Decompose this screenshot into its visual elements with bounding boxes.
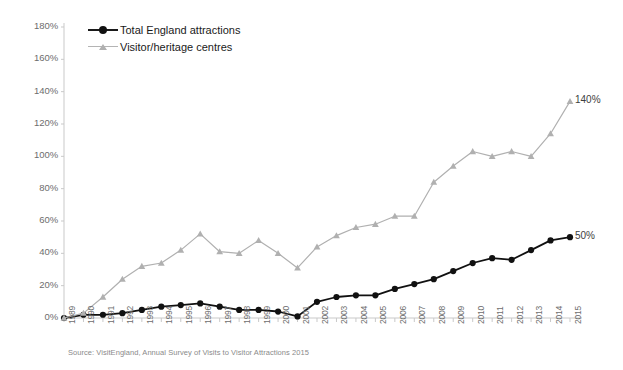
- x-axis-tick-label: 2004: [360, 306, 369, 324]
- x-axis-tick-label: 1989: [68, 306, 77, 324]
- x-axis-tick-label: 1997: [224, 306, 233, 324]
- legend-item-visitor-heritage-centres: Visitor/heritage centres: [88, 38, 240, 55]
- x-axis-tick-label: 2006: [399, 306, 408, 324]
- x-axis-tick-label: 1998: [243, 306, 252, 324]
- chart-legend: Total England attractions Visitor/herita…: [88, 21, 240, 55]
- x-axis-tick-label: 1993: [146, 306, 155, 324]
- y-axis-tick-label: 0%: [16, 312, 58, 322]
- y-axis-tick-label: 160%: [16, 53, 58, 63]
- y-axis-tick-label: 60%: [16, 215, 58, 225]
- x-axis-tick-label: 2001: [302, 306, 311, 324]
- source-note: Source: VisitEngland, Annual Survey of V…: [68, 348, 309, 357]
- chart-container: Total England attractions Visitor/herita…: [0, 0, 623, 370]
- x-axis-tick-label: 2002: [321, 306, 330, 324]
- legend-swatch-gray: [88, 41, 118, 53]
- x-axis-tick-label: 2011: [496, 307, 505, 324]
- x-axis-tick-label: 1992: [126, 306, 135, 324]
- data-label-total-england-attractions: 50%: [575, 230, 595, 241]
- x-axis-tick-label: 2008: [438, 306, 447, 324]
- x-axis-tick-label: 2012: [516, 306, 525, 324]
- y-axis-tick-label: 40%: [16, 247, 58, 257]
- y-axis-tick-label: 80%: [16, 183, 58, 193]
- y-axis-tick-label: 140%: [16, 86, 58, 96]
- y-axis-tick-label: 120%: [16, 118, 58, 128]
- x-axis-tick-label: 2005: [379, 306, 388, 324]
- x-axis-tick-label: 2007: [418, 306, 427, 324]
- x-axis-tick-label: 2015: [574, 306, 583, 324]
- y-axis-tick-label: 180%: [16, 21, 58, 31]
- legend-item-total-england-attractions: Total England attractions: [88, 21, 240, 38]
- y-axis-tick-label: 20%: [16, 280, 58, 290]
- x-axis-tick-label: 1999: [263, 306, 272, 324]
- x-axis-tick-label: 2003: [340, 306, 349, 324]
- legend-label-total-england-attractions: Total England attractions: [120, 24, 240, 36]
- x-axis-tick-label: 1991: [107, 306, 116, 324]
- x-axis-tick-label: 2010: [477, 306, 486, 324]
- data-label-visitor-heritage-centres: 140%: [575, 94, 601, 105]
- legend-label-visitor-heritage-centres: Visitor/heritage centres: [120, 41, 232, 53]
- legend-swatch-black: [88, 24, 118, 36]
- x-axis-tick-label: 1996: [204, 306, 213, 324]
- x-axis-tick-label: 1994: [165, 306, 174, 324]
- x-axis-tick-label: 2000: [282, 306, 291, 324]
- x-axis-tick-label: 1995: [185, 306, 194, 324]
- x-axis-tick-label: 2014: [555, 306, 564, 324]
- y-axis-tick-label: 100%: [16, 150, 58, 160]
- x-axis-tick-label: 1990: [87, 306, 96, 324]
- x-axis-tick-label: 2009: [457, 306, 466, 324]
- x-axis-tick-label: 2013: [535, 306, 544, 324]
